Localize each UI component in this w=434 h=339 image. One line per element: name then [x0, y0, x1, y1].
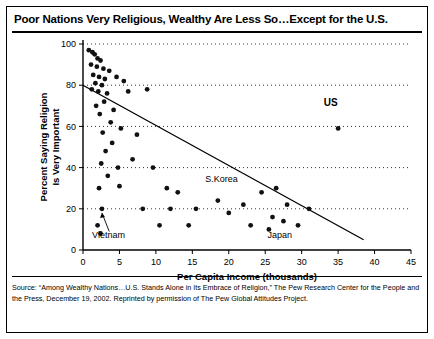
data-point [248, 223, 253, 228]
source-line-1: Source: “Among Wealthy Nations…U.S. Stan… [12, 283, 422, 294]
xtick-label-25: 25 [260, 257, 270, 267]
data-point [241, 202, 246, 207]
data-point [105, 91, 110, 96]
y-axis-label-line1: Percent Saying Religion [38, 92, 49, 201]
annotation-japan: Japan [268, 230, 293, 240]
ytick-label-60: 60 [66, 122, 76, 132]
data-point [117, 184, 122, 189]
data-point [145, 87, 150, 92]
data-point [226, 211, 231, 216]
ytick-label-100: 100 [61, 39, 76, 49]
source-note: Source: “Among Wealthy Nations…U.S. Stan… [12, 283, 422, 304]
annotation-skorea: S.Korea [205, 174, 238, 184]
data-point [97, 112, 102, 117]
data-point [114, 75, 119, 80]
ytick-label-80: 80 [66, 80, 76, 90]
data-point [100, 83, 105, 88]
annotation-us: US [324, 97, 338, 108]
data-point [175, 190, 180, 195]
xtick-label-40: 40 [370, 257, 380, 267]
data-point [215, 198, 220, 203]
data-point [98, 58, 103, 63]
data-point [99, 161, 104, 166]
trendline [83, 85, 364, 240]
data-point [94, 103, 99, 108]
data-point [121, 79, 126, 84]
data-point [96, 89, 101, 94]
data-point [89, 87, 94, 92]
data-point [93, 81, 98, 86]
data-point [270, 215, 275, 220]
data-point [105, 173, 110, 178]
data-point [186, 223, 191, 228]
source-divider [12, 276, 422, 277]
data-point [103, 149, 108, 154]
data-point [110, 140, 115, 145]
data-point [130, 157, 135, 162]
chart-page: Poor Nations Very Religious, Wealthy Are… [0, 0, 434, 339]
data-point [164, 186, 169, 191]
data-point [281, 219, 286, 224]
vietnam-arrowhead [100, 213, 105, 218]
ytick-label-40: 40 [66, 163, 76, 173]
xtick-label-45: 45 [406, 257, 416, 267]
y-axis-label-line2: Is Very Important [50, 108, 61, 186]
xtick-label-5: 5 [117, 257, 122, 267]
data-point [100, 130, 105, 135]
ytick-label-20: 20 [66, 204, 76, 214]
ytick-label-0: 0 [71, 245, 76, 255]
data-point [168, 206, 173, 211]
data-point [94, 64, 99, 69]
data-point [89, 62, 94, 67]
data-point [296, 223, 301, 228]
xtick-label-30: 30 [297, 257, 307, 267]
data-point [100, 206, 105, 211]
data-point [307, 206, 312, 211]
data-point [157, 223, 162, 228]
data-point [107, 68, 112, 73]
data-point [285, 202, 290, 207]
data-point [140, 206, 145, 211]
xtick-label-0: 0 [80, 257, 85, 267]
data-point [116, 165, 121, 170]
xtick-label-15: 15 [187, 257, 197, 267]
data-point [95, 223, 100, 228]
data-point [336, 126, 341, 131]
annotation-vietnam: Vietnam [92, 230, 125, 240]
data-point [101, 66, 106, 71]
data-point [91, 73, 96, 78]
data-point [259, 190, 264, 195]
data-point [102, 99, 107, 104]
data-point [151, 165, 156, 170]
source-line-2: the Press, December 19, 2002. Reprinted … [12, 294, 422, 305]
data-point [102, 77, 107, 82]
data-point [119, 126, 124, 131]
data-point [194, 206, 199, 211]
data-point [97, 75, 102, 80]
data-point [135, 132, 140, 137]
data-point [108, 120, 113, 125]
data-point [274, 186, 279, 191]
data-point [97, 186, 102, 191]
data-point [126, 89, 131, 94]
data-point [111, 108, 116, 113]
data-point [92, 52, 97, 57]
xtick-label-35: 35 [333, 257, 343, 267]
xtick-label-20: 20 [224, 257, 234, 267]
xtick-label-10: 10 [151, 257, 161, 267]
